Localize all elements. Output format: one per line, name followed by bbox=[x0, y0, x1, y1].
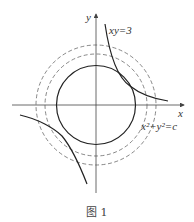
y-axis-label: y bbox=[85, 11, 91, 23]
hyperbola-label: xy=3 bbox=[108, 24, 132, 36]
figure-diagram: y x xy=3 x²+y²=c 图 1 bbox=[0, 0, 194, 222]
hyperbola-branch-third-quadrant bbox=[20, 115, 87, 184]
circle-family-label: x²+y²=c bbox=[140, 120, 177, 132]
figure-caption: 图 1 bbox=[86, 206, 108, 219]
x-axis-label: x bbox=[177, 107, 183, 119]
